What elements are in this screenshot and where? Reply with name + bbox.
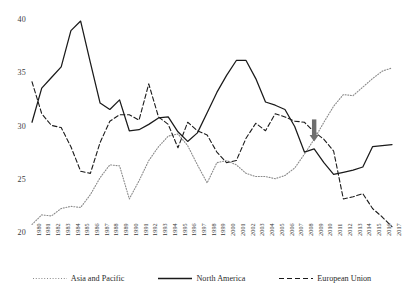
legend-label: Asia and Pacific — [71, 274, 125, 283]
x-tick-label: 1985 — [83, 223, 90, 236]
x-tick-label: 2011 — [336, 223, 343, 236]
x-tick-label: 1993 — [161, 223, 168, 236]
x-tick-label: 1988 — [112, 223, 119, 236]
x-tick-label: 1981 — [44, 223, 51, 236]
x-tick-label: 2013 — [356, 223, 363, 236]
legend-item-european-union[interactable]: European Union — [279, 274, 371, 283]
y-tick-label: 40 — [8, 15, 26, 24]
x-tick-label: 1989 — [122, 223, 129, 236]
x-tick-label: 2006 — [288, 223, 295, 236]
x-tick-label: 2009 — [317, 223, 324, 236]
x-tick-label: 2001 — [239, 223, 246, 236]
line-chart: 2025303540 19801981198219831984198519861… — [0, 0, 404, 298]
x-tick-label: 2012 — [346, 223, 353, 236]
series-line-north-america — [32, 21, 392, 174]
legend-swatch-dotted-icon — [33, 275, 67, 282]
x-tick-label: 1992 — [151, 223, 158, 236]
x-tick-label: 2015 — [375, 223, 382, 236]
plot-area — [0, 0, 404, 298]
x-tick-label: 1982 — [54, 223, 61, 236]
x-tick-label: 1996 — [190, 223, 197, 236]
x-tick-label: 1999 — [219, 223, 226, 236]
x-tick-label: 1991 — [142, 223, 149, 236]
x-tick-label: 1990 — [132, 223, 139, 236]
x-tick-label: 2008 — [307, 223, 314, 236]
series-layer — [32, 21, 392, 227]
x-tick-label: 1998 — [210, 223, 217, 236]
legend-item-north-america[interactable]: North America — [158, 274, 245, 283]
y-tick-label: 35 — [8, 68, 26, 77]
x-tick-label: 1986 — [93, 223, 100, 236]
x-tick-label: 1980 — [35, 223, 42, 236]
y-tick-label: 30 — [8, 122, 26, 131]
x-tick-label: 2005 — [278, 223, 285, 236]
x-tick-label: 2014 — [365, 223, 372, 236]
x-tick-label: 2000 — [229, 223, 236, 236]
annotation-layer — [310, 119, 319, 141]
y-tick-label: 25 — [8, 175, 26, 184]
series-line-asia-and-pacific — [32, 68, 392, 225]
legend-item-asia-and-pacific[interactable]: Asia and Pacific — [33, 274, 125, 283]
x-tick-label: 2017 — [395, 223, 402, 236]
legend-label: North America — [196, 274, 245, 283]
x-tick-label: 2003 — [258, 223, 265, 236]
legend-swatch-solid-icon — [158, 275, 192, 282]
crisis-arrow-icon — [310, 119, 319, 141]
legend-label: European Union — [317, 274, 371, 283]
legend-swatch-dashed-icon — [279, 275, 313, 282]
x-tick-label: 1984 — [74, 223, 81, 236]
chart-legend: Asia and PacificNorth AmericaEuropean Un… — [0, 274, 404, 283]
x-tick-label: 2004 — [268, 223, 275, 236]
x-tick-label: 1995 — [181, 223, 188, 236]
y-tick-label: 20 — [8, 228, 26, 237]
x-tick-label: 2002 — [249, 223, 256, 236]
x-tick-label: 1987 — [103, 223, 110, 236]
x-tick-label: 2007 — [297, 223, 304, 236]
x-tick-label: 1994 — [171, 223, 178, 236]
x-tick-label: 2010 — [326, 223, 333, 236]
x-tick-label: 2016 — [385, 223, 392, 236]
x-tick-label: 1983 — [64, 223, 71, 236]
x-tick-label: 1997 — [200, 223, 207, 236]
